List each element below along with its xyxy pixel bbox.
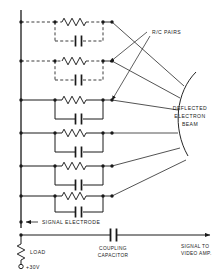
output-signal-line <box>19 233 210 236</box>
rc-pair-3 <box>19 96 113 124</box>
deflected-beam-label-line2: ELECTRON <box>174 113 205 119</box>
deflected-beam-label-line3: BEAM <box>182 121 198 127</box>
schematic-canvas: R/C PAIRS DEFLECTED ELECTRON BEAM SIGNAL… <box>0 0 224 278</box>
signal-output-label-line1: SIGNAL TO <box>181 244 209 249</box>
rc-pair-1 <box>19 18 113 46</box>
signal-electrode-leader <box>19 220 38 223</box>
deflected-beam-label-line1: DEFLECTED <box>173 105 207 111</box>
rc-pair-2 <box>19 57 113 85</box>
rc-pair-4 <box>19 129 113 157</box>
supply-label: +30V <box>26 264 40 270</box>
rc-pairs-leader-lines <box>110 32 150 100</box>
load-label: LOAD <box>30 249 46 255</box>
rc-pairs-label: R/C PAIRS <box>152 29 181 35</box>
rc-pair-6 <box>19 192 113 217</box>
load-resistor <box>17 235 25 265</box>
schematic-diagram: R/C PAIRS DEFLECTED ELECTRON BEAM SIGNAL… <box>0 0 224 278</box>
rc-pair-5 <box>19 162 113 190</box>
coupling-capacitor-label-line1: COUPLING <box>99 246 127 251</box>
signal-electrode-label: SIGNAL ELECTRODE <box>42 219 100 225</box>
coupling-capacitor-label-line2: CAPACITOR <box>98 253 129 258</box>
coupling-capacitor-symbol <box>111 229 117 242</box>
signal-output-label-line2: VIDEO AMP. <box>181 251 212 256</box>
